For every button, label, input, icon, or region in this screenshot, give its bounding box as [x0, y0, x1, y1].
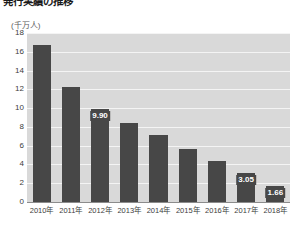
y-axis-tick-label: 18 — [0, 29, 24, 37]
bar: 3.05 — [237, 173, 255, 202]
y-axis-tick-label: 12 — [0, 85, 24, 93]
bar-value-label: 1.66 — [266, 188, 286, 198]
bar-value-label: 3.05 — [236, 175, 256, 185]
y-axis-tick-label: 4 — [0, 160, 24, 168]
bar — [33, 45, 51, 202]
y-axis-tick-label: 10 — [0, 104, 24, 112]
x-axis-tick-label: 2012年 — [85, 206, 114, 215]
gridline — [27, 71, 290, 72]
gridline — [27, 52, 290, 53]
x-axis-tick-label: 2010年 — [27, 206, 56, 215]
x-axis-tick-label: 2016年 — [202, 206, 231, 215]
page-title: 発行実績の推移 — [3, 0, 73, 7]
bar-chart: 発行実績の推移 (千万人) 9.903.051.66 1816141210864… — [0, 0, 307, 236]
x-axis-tick-label: 2018年 — [261, 206, 290, 215]
y-axis-tick-label: 16 — [0, 48, 24, 56]
x-axis-tick-label: 2015年 — [173, 206, 202, 215]
y-axis-tick-label: 14 — [0, 67, 24, 75]
y-axis-tick-label: 6 — [0, 142, 24, 150]
x-axis-line — [27, 202, 290, 203]
y-axis-tick-label: 0 — [0, 198, 24, 206]
y-axis-tick-label: 8 — [0, 123, 24, 131]
x-axis-tick-label: 2017年 — [232, 206, 261, 215]
x-axis-tick-label: 2013年 — [115, 206, 144, 215]
y-axis-tick-label: 2 — [0, 179, 24, 187]
bar — [149, 135, 167, 202]
bar: 1.66 — [266, 186, 284, 202]
plot-area: 9.903.051.66 — [27, 33, 290, 202]
bar — [179, 149, 197, 202]
bar — [120, 123, 138, 202]
gridline — [27, 33, 290, 34]
bar-value-label: 9.90 — [90, 111, 110, 121]
bar — [62, 87, 80, 202]
x-axis-tick-label: 2014年 — [144, 206, 173, 215]
bar: 9.90 — [91, 109, 109, 202]
bar — [208, 161, 226, 202]
x-axis-tick-label: 2011年 — [56, 206, 85, 215]
